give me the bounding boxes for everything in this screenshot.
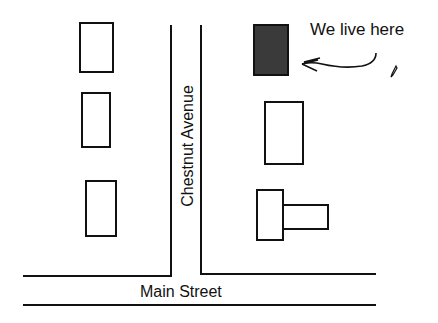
map-canvas: Chestnut Avenue Main Street We live here bbox=[0, 0, 438, 323]
pencil-icon bbox=[0, 0, 438, 323]
